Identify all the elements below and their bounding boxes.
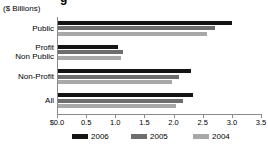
category-label: Non-Profit bbox=[18, 72, 54, 81]
x-axis-tick-label: 2.0 bbox=[168, 118, 178, 127]
legend-item-2004[interactable]: 2004 bbox=[193, 132, 230, 141]
legend-item-2006[interactable]: 2006 bbox=[72, 132, 109, 141]
bar-2004-public bbox=[58, 32, 207, 36]
x-axis-tick-label: 3.0 bbox=[227, 118, 237, 127]
bar-2004-profit-non-public bbox=[58, 56, 121, 60]
bar-2005-public bbox=[58, 26, 215, 30]
legend-label: 2006 bbox=[91, 132, 109, 141]
x-axis-tick-label: $0.0 bbox=[50, 118, 65, 127]
bar-2005-non-profit bbox=[58, 75, 179, 79]
plot-area: $0.00.51.01.52.02.53.03.5 bbox=[57, 17, 261, 114]
category-label: Public bbox=[32, 24, 54, 33]
x-axis-line bbox=[57, 114, 261, 115]
x-axis-tick-label: 2.5 bbox=[197, 118, 207, 127]
legend-label: 2005 bbox=[150, 132, 168, 141]
chart-title-fragment: g bbox=[60, 0, 67, 5]
x-axis-tick-label: 1.5 bbox=[139, 118, 149, 127]
bar-chart: g ($ Billions) PublicProfitNon PublicNon… bbox=[0, 0, 268, 147]
legend-swatch-icon bbox=[131, 134, 147, 139]
bar-2006-public bbox=[58, 21, 232, 25]
x-axis-tick-label: 1.0 bbox=[110, 118, 120, 127]
chart-legend: 200620052004 bbox=[0, 129, 268, 147]
legend-label: 2004 bbox=[212, 132, 230, 141]
category-label-column: PublicProfitNon PublicNon-ProfitAll bbox=[0, 17, 54, 114]
bar-2004-all bbox=[58, 104, 176, 108]
legend-item-2005[interactable]: 2005 bbox=[131, 132, 168, 141]
x-axis-tick-label: 0.5 bbox=[81, 118, 91, 127]
bar-2006-non-profit bbox=[58, 69, 191, 73]
bar-2005-profit-non-public bbox=[58, 50, 123, 54]
bar-2006-all bbox=[58, 93, 193, 97]
bar-2004-non-profit bbox=[58, 80, 172, 84]
axis-unit-label: ($ Billions) bbox=[3, 4, 40, 13]
x-axis-tick-label: 3.5 bbox=[256, 118, 266, 127]
bar-2005-all bbox=[58, 99, 183, 103]
bar-2006-profit-non-public bbox=[58, 45, 118, 49]
legend-swatch-icon bbox=[72, 134, 88, 139]
legend-swatch-icon bbox=[193, 134, 209, 139]
category-label: All bbox=[45, 96, 54, 105]
category-label: ProfitNon Public bbox=[15, 43, 54, 61]
